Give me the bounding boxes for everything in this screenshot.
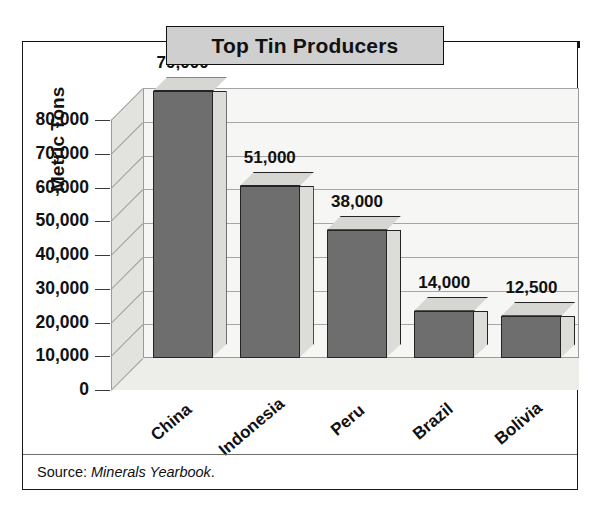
bar-front-face	[327, 230, 387, 358]
bar-front-face	[240, 186, 300, 358]
y-axis-tick	[95, 255, 110, 256]
bar-side-face	[386, 230, 401, 358]
source-work: Minerals Yearbook	[91, 464, 211, 480]
bar-front-face	[501, 316, 561, 358]
bar-side-face	[212, 91, 227, 358]
y-axis-tick-label: 80,000	[35, 109, 89, 130]
y-axis-tick-label: 30,000	[35, 278, 89, 299]
bar-column: 12,500	[501, 316, 561, 358]
y-axis-tick	[95, 188, 110, 189]
source-note: Source: Minerals Yearbook.	[37, 464, 215, 480]
y-axis-tick-label: 70,000	[35, 143, 89, 164]
bar-value-label: 51,000	[244, 148, 296, 168]
bar-side-face	[299, 186, 314, 358]
source-prefix: Source:	[37, 464, 87, 480]
figure-frame: 79,00051,00038,00014,00012,500 Metric To…	[22, 42, 578, 490]
y-axis-tick	[95, 221, 110, 222]
y-axis-tick-label: 20,000	[35, 312, 89, 333]
y-axis-tick-label: 60,000	[35, 177, 89, 198]
y-axis-tick-label: 50,000	[35, 210, 89, 231]
bar-front-face	[153, 91, 213, 358]
chart-title: Top Tin Producers	[212, 34, 399, 58]
bar-front-face	[414, 311, 474, 358]
bar-column: 51,000	[240, 186, 300, 358]
y-axis-tick	[95, 154, 110, 155]
y-axis-tick-label: 40,000	[35, 244, 89, 265]
source-divider	[23, 454, 577, 455]
chart-floor	[111, 358, 579, 390]
chart-title-plaque: Top Tin Producers	[166, 26, 444, 65]
bar-column: 38,000	[327, 230, 387, 358]
source-suffix: .	[211, 464, 215, 480]
plot-area: 79,00051,00038,00014,00012,500	[111, 88, 579, 418]
y-axis-tick	[95, 289, 110, 290]
bar-column: 79,000	[153, 91, 213, 358]
y-axis-tick	[95, 120, 110, 121]
y-axis-tick	[95, 323, 110, 324]
y-axis-tick-label: 0	[79, 379, 89, 400]
y-axis-tick-label: 10,000	[35, 345, 89, 366]
bar-value-label: 14,000	[418, 273, 470, 293]
bar-column: 14,000	[414, 311, 474, 358]
y-axis-tick	[95, 390, 110, 391]
bar-value-label: 38,000	[331, 192, 383, 212]
y-axis-tick	[95, 356, 110, 357]
bar-value-label: 12,500	[505, 278, 557, 298]
